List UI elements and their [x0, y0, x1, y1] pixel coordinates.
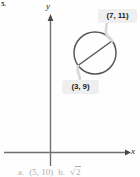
figure-page: 5. y x (7, 11) (3, 9) a.(5, 10)b.√2 — [0, 0, 140, 177]
answer-b-radical: √2 — [70, 166, 81, 177]
callout-endpoint-lower-left: (3, 9) — [62, 80, 99, 94]
answer-b-label: b. — [58, 167, 65, 177]
answer-b-radicand: 2 — [75, 166, 82, 177]
answer-line: a.(5, 10)b.√2 — [18, 167, 81, 177]
diameter-segment — [78, 41, 112, 66]
answer-a-label: a. — [18, 167, 24, 177]
callout-tail-upper-right — [106, 23, 113, 41]
answer-a-value: (5, 10) — [29, 167, 53, 177]
callout-endpoint-upper-right: (7, 11) — [98, 9, 137, 23]
